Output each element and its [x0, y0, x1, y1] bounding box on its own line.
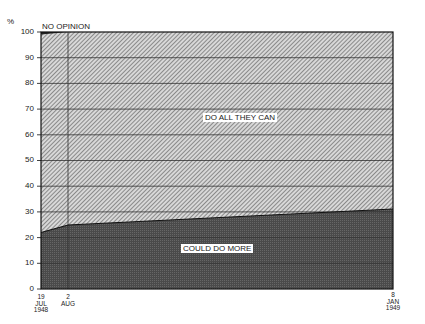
- no-opinion-label: NO OPINION: [42, 23, 90, 31]
- do-all-label: DO ALL THEY CAN: [203, 113, 277, 122]
- xtick-2-aug: 2AUG: [53, 294, 83, 307]
- y-unit-label: %: [7, 18, 14, 26]
- ytick-80: 80: [4, 79, 34, 87]
- ytick-20: 20: [4, 234, 34, 242]
- ytick-40: 40: [4, 182, 34, 190]
- ytick-60: 60: [4, 131, 34, 139]
- ytick-10: 10: [4, 259, 34, 267]
- stacked-area-chart: [0, 0, 425, 324]
- ytick-0: 0: [4, 285, 34, 293]
- xtick-8-jan-1949: 8JAN1949: [378, 292, 408, 312]
- ytick-90: 90: [4, 54, 34, 62]
- ytick-100: 100: [4, 28, 34, 36]
- could-do-more-label: COULD DO MORE: [181, 244, 253, 253]
- xtick-19-jul-1948: 19JUL1948: [26, 294, 56, 314]
- ytick-70: 70: [4, 105, 34, 113]
- ytick-50: 50: [4, 156, 34, 164]
- ytick-30: 30: [4, 208, 34, 216]
